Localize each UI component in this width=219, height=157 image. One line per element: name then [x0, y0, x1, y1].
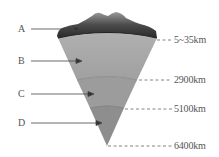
- label-C: C: [18, 89, 25, 99]
- depth-label-6400: 6400km: [174, 141, 206, 151]
- label-D: D: [18, 118, 25, 128]
- layer-mantle: [58, 32, 157, 80]
- label-A: A: [18, 24, 25, 34]
- layer-outer-core: [77, 77, 137, 109]
- depth-label-2900: 2900km: [174, 75, 206, 85]
- label-B: B: [18, 56, 25, 66]
- depth-label-crust: 5~35km: [174, 35, 206, 45]
- layer-inner-core: [90, 106, 124, 146]
- depth-label-5100: 5100km: [174, 104, 206, 114]
